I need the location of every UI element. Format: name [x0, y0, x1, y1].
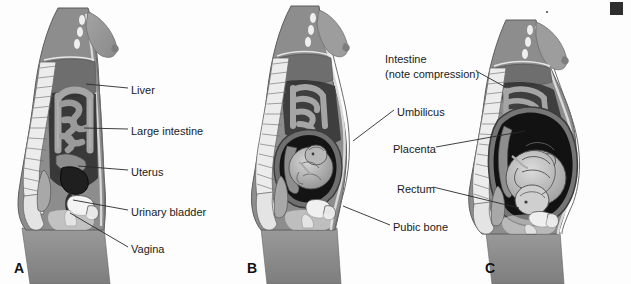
- panel-c-illustration: [440, 0, 631, 284]
- anatomical-figure: A: [0, 0, 631, 284]
- label-urinary-bladder: Urinary bladder: [131, 206, 206, 219]
- panel-letter-c: C: [485, 260, 495, 276]
- label-rectum: Rectum: [397, 183, 435, 196]
- panel-c-latepregnancy: C: [440, 0, 631, 284]
- label-intestine-note: (note compression): [385, 68, 479, 81]
- panel-letter-a: A: [14, 260, 24, 276]
- panel-a-illustration: [0, 0, 215, 284]
- label-uterus: Uterus: [131, 166, 163, 179]
- panel-letter-b: B: [247, 260, 257, 276]
- label-umbilicus: Umbilicus: [397, 106, 445, 119]
- label-liver: Liver: [131, 84, 155, 97]
- panel-a-nonpregnant: A: [0, 0, 215, 284]
- label-vagina: Vagina: [131, 243, 164, 256]
- corner-speck: [546, 11, 548, 13]
- panel-b-midpregnancy: B: [213, 0, 403, 284]
- label-pubic-bone: Pubic bone: [393, 221, 448, 234]
- corner-artifact: [610, 2, 623, 15]
- panel-b-illustration: [213, 0, 403, 284]
- label-intestine: Intestine: [385, 53, 427, 66]
- label-large-intestine: Large intestine: [131, 125, 203, 138]
- label-placenta: Placenta: [393, 143, 436, 156]
